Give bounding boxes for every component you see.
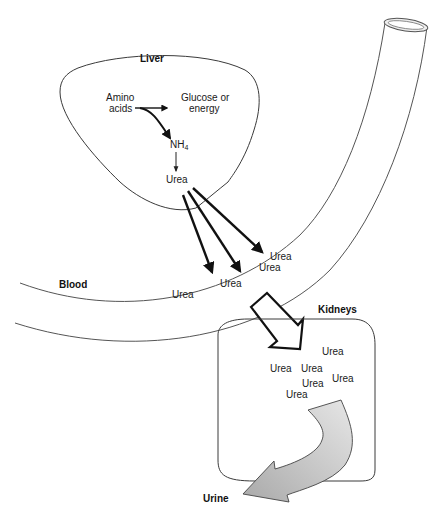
- kidney-urea-6: Urea: [286, 389, 308, 400]
- urea-liver-label: Urea: [166, 174, 188, 185]
- kidneys-label: Kidneys: [318, 304, 357, 315]
- amino-acids-label: Amino: [106, 92, 135, 103]
- blood-urea-4: Urea: [172, 289, 194, 300]
- blood-urea-3: Urea: [220, 278, 242, 289]
- to-kidney-arrow: [251, 293, 303, 349]
- blood-vessel: [15, 16, 429, 341]
- liver-outline: [60, 56, 259, 210]
- urea-cycle-diagram: Liver Amino acids Glucose or energy NH4 …: [0, 0, 443, 516]
- kidney-urea-4: Urea: [332, 373, 354, 384]
- amino-acids-label-2: acids: [109, 103, 132, 114]
- glucose-label: Glucose or: [181, 92, 230, 103]
- vessel-inner-wall: [20, 23, 385, 301]
- kidney-urea-1: Urea: [322, 346, 344, 357]
- vessel-outer-wall: [15, 27, 427, 341]
- blood-label: Blood: [59, 279, 87, 290]
- blood-urea-2: Urea: [259, 262, 281, 273]
- kidney-urea-2: Urea: [270, 363, 292, 374]
- urine-arrow: [243, 400, 352, 502]
- blood-urea-1: Urea: [270, 251, 292, 262]
- to-nh4-arrow: [140, 108, 170, 138]
- nh4-label: NH4: [170, 139, 188, 151]
- liver-label: Liver: [140, 53, 164, 64]
- glucose-label-2: energy: [189, 103, 220, 114]
- urea-release-arrows: [183, 188, 262, 272]
- kidney-urea-3: Urea: [301, 363, 323, 374]
- kidney-urea-5: Urea: [302, 378, 324, 389]
- urine-label: Urine: [203, 493, 229, 504]
